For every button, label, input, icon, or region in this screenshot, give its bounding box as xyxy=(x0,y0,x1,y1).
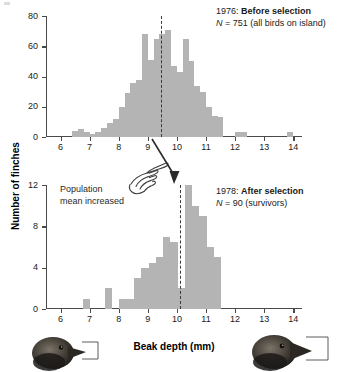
finch-beak-depth-figure: Number of finches 1976: Before selection… xyxy=(0,0,338,372)
histogram-bar xyxy=(192,206,199,309)
histogram-bar xyxy=(127,299,134,309)
y-axis-tick xyxy=(42,46,46,47)
histogram-bar xyxy=(241,132,247,137)
x-axis-tick xyxy=(119,309,120,313)
chart-title-bold-1976: Before selection xyxy=(241,6,311,16)
finch-head-photo-small-beak xyxy=(24,332,110,372)
y-axis-tick-label: 0 xyxy=(10,132,38,142)
histogram-bar xyxy=(156,257,163,309)
x-axis-tick xyxy=(61,137,62,141)
y-axis-tick-label: 12 xyxy=(10,180,38,190)
x-axis-tick xyxy=(206,137,207,141)
histogram-bar xyxy=(119,299,126,309)
x-axis-tick xyxy=(293,309,294,313)
histogram-bar xyxy=(199,216,206,309)
x-axis-tick xyxy=(90,137,91,141)
histogram-bar xyxy=(214,257,221,309)
chart-title-year-1976: 1976: xyxy=(216,6,239,16)
y-axis-tick-label: 8 xyxy=(10,221,38,231)
x-axis-tick xyxy=(264,309,265,313)
x-axis-tick-label: 11 xyxy=(194,314,218,324)
histogram-bar xyxy=(163,237,170,309)
x-axis-tick-label: 8 xyxy=(107,314,131,324)
x-axis-tick-label: 9 xyxy=(136,314,160,324)
histogram-bar xyxy=(185,185,192,309)
y-axis-tick xyxy=(42,226,46,227)
y-axis-tick xyxy=(42,77,46,78)
chart-before-selection-1976: 1976: Before selection N = 751 (all bird… xyxy=(0,0,338,160)
histogram-bar xyxy=(105,288,112,309)
y-axis-tick xyxy=(42,16,46,17)
x-axis-tick-label: 10 xyxy=(165,314,189,324)
scan-artifact xyxy=(4,2,10,5)
y-axis-tick-label: 40 xyxy=(10,71,38,81)
x-axis-tick xyxy=(119,137,120,141)
x-axis-tick xyxy=(206,309,207,313)
x-axis-tick xyxy=(235,309,236,313)
y-axis-tick xyxy=(42,268,46,269)
histogram-bar xyxy=(218,117,224,137)
histogram-bar xyxy=(178,288,185,309)
x-axis-tick-label: 14 xyxy=(281,314,305,324)
y-axis-tick-label: 80 xyxy=(10,11,38,21)
x-axis-tick-label: 14 xyxy=(281,142,305,152)
x-axis-tick-label: 13 xyxy=(252,314,276,324)
histogram-bar xyxy=(141,268,148,309)
chart-after-selection-1978: 1978: After selection N = 90 (survivors)… xyxy=(0,180,338,330)
mean-line-1978 xyxy=(180,185,181,309)
x-axis-title: Beak depth (mm) xyxy=(104,341,244,352)
x-axis-tick-label: 8 xyxy=(107,142,131,152)
histogram-bar xyxy=(170,242,177,309)
histogram-bar xyxy=(83,299,90,309)
y-axis-tick-label: 60 xyxy=(10,41,38,51)
y-axis-tick-label: 0 xyxy=(10,304,38,314)
finch-head-photo-large-beak xyxy=(244,330,334,372)
plot-area-bottom xyxy=(46,185,302,309)
y-axis-tick xyxy=(42,309,46,310)
x-axis-tick xyxy=(235,137,236,141)
mean-line-1976 xyxy=(161,16,162,137)
y-axis-tick xyxy=(42,137,46,138)
x-axis-tick-label: 7 xyxy=(78,142,102,152)
histogram-bar xyxy=(207,247,214,309)
x-axis-tick-label: 7 xyxy=(78,314,102,324)
x-axis-tick xyxy=(90,309,91,313)
y-axis-tick xyxy=(42,107,46,108)
x-axis-tick-label: 12 xyxy=(223,314,247,324)
x-axis-tick-label: 11 xyxy=(194,142,218,152)
x-axis-tick xyxy=(264,137,265,141)
x-axis-tick xyxy=(177,309,178,313)
x-axis-tick xyxy=(148,137,149,141)
plot-area-top xyxy=(46,16,302,137)
x-axis-tick-label: 12 xyxy=(223,142,247,152)
x-axis-tick-label: 13 xyxy=(252,142,276,152)
y-axis-tick-label: 20 xyxy=(10,101,38,111)
x-axis-tick-label: 6 xyxy=(49,142,73,152)
x-axis-tick xyxy=(61,309,62,313)
histogram-bar xyxy=(134,278,141,309)
x-axis-tick-label: 6 xyxy=(49,314,73,324)
y-axis-tick-label: 4 xyxy=(10,262,38,272)
x-axis-tick xyxy=(148,309,149,313)
y-axis-tick xyxy=(42,185,46,186)
histogram-bar xyxy=(149,263,156,310)
x-axis-tick xyxy=(293,137,294,141)
